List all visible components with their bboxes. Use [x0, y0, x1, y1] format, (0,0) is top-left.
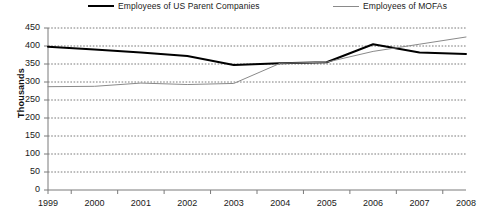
- y-tick-label: 0: [10, 184, 40, 194]
- x-tick-label: 1999: [28, 198, 68, 208]
- y-tick-label: 50: [10, 166, 40, 176]
- y-tick-label: 350: [10, 58, 40, 68]
- y-tick-label: 400: [10, 40, 40, 50]
- x-tick-label: 2005: [307, 198, 347, 208]
- axis-lines: [48, 28, 466, 190]
- y-tick-label: 150: [10, 130, 40, 140]
- x-tick-label: 2007: [400, 198, 440, 208]
- y-tick-label: 300: [10, 76, 40, 86]
- series-line-0: [48, 44, 466, 65]
- x-tick-label: 2004: [260, 198, 300, 208]
- series-line-1: [48, 37, 466, 87]
- y-tick-label: 250: [10, 94, 40, 104]
- y-tick-label: 450: [10, 22, 40, 32]
- y-tick-label: 100: [10, 148, 40, 158]
- x-tick-label: 2008: [446, 198, 481, 208]
- tick-marks: [44, 28, 443, 194]
- data-series: [48, 37, 466, 87]
- x-tick-label: 2000: [74, 198, 114, 208]
- x-tick-label: 2001: [121, 198, 161, 208]
- x-tick-label: 2002: [167, 198, 207, 208]
- y-tick-label: 200: [10, 112, 40, 122]
- x-tick-label: 2003: [214, 198, 254, 208]
- x-tick-label: 2006: [353, 198, 393, 208]
